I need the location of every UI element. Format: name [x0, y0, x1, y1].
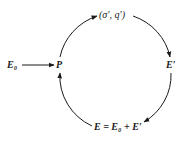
node-e-prime: E′ — [166, 60, 175, 70]
arc-e-to-p — [60, 73, 92, 126]
node-p: P — [56, 60, 62, 70]
node-e0: E₀ — [7, 60, 17, 70]
arc-p-to-sigma — [60, 16, 97, 57]
cycle-diagram — [0, 0, 181, 142]
arc-sigma-to-eprime — [133, 16, 170, 57]
arc-eprime-to-e — [144, 73, 171, 122]
node-e-sum: E = E₀ + E′ — [94, 122, 142, 132]
node-sigma-q: (σ′, q′) — [99, 10, 125, 20]
